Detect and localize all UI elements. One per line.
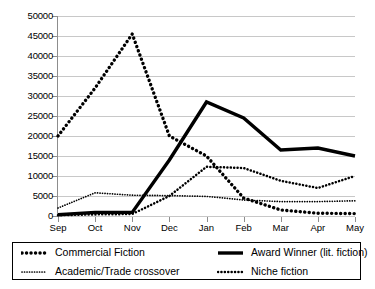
legend-label: Award Winner (lit. fiction) (251, 247, 368, 258)
series-line (58, 193, 355, 208)
dotted-thick-marker (21, 248, 48, 258)
line-chart: 0500010000150002000025000300003500040000… (0, 0, 375, 289)
legend-item[interactable]: Commercial Fiction (13, 247, 209, 258)
solid-thick-marker (217, 248, 244, 258)
legend-item[interactable]: Award Winner (lit. fiction) (209, 247, 362, 258)
dotted-medium-marker (217, 267, 244, 277)
legend-label: Niche fiction (251, 266, 308, 277)
legend-item[interactable]: Academic/Trade crossover (13, 266, 209, 277)
series-lines (0, 0, 375, 236)
series-line (58, 167, 355, 215)
dotted-fine-marker (21, 267, 48, 277)
legend-label: Commercial Fiction (55, 247, 145, 258)
chart-legend: Commercial FictionAward Winner (lit. fic… (12, 242, 361, 280)
plot-area: 0500010000150002000025000300003500040000… (0, 0, 375, 236)
legend-item[interactable]: Niche fiction (209, 266, 362, 277)
legend-label: Academic/Trade crossover (55, 266, 180, 277)
